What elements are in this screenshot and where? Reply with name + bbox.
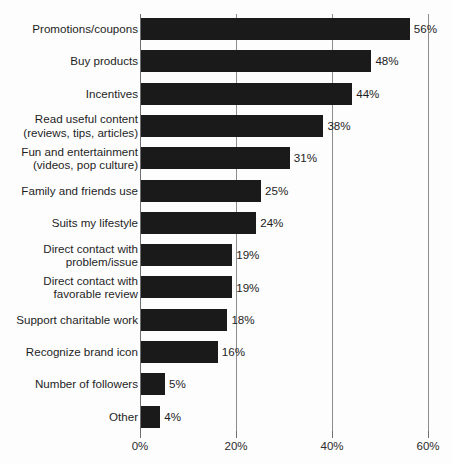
bar-value-label: 56% bbox=[414, 22, 437, 35]
category-label: Fun and entertainment (videos, pop cultu… bbox=[0, 145, 138, 172]
bar bbox=[141, 406, 160, 428]
category-label: Buy products bbox=[0, 54, 138, 68]
bar-value-label: 24% bbox=[260, 216, 283, 229]
x-tick-mark bbox=[140, 431, 141, 438]
bar bbox=[141, 147, 290, 169]
bar-value-label: 38% bbox=[327, 119, 350, 132]
x-axis-tick-label: 40% bbox=[320, 440, 343, 452]
bar-value-label: 25% bbox=[265, 184, 288, 197]
x-tick-mark bbox=[332, 431, 333, 438]
bar-row: Support charitable work18% bbox=[0, 309, 452, 331]
bar-row: Read useful content (reviews, tips, arti… bbox=[0, 115, 452, 137]
bar-row: Suits my lifestyle24% bbox=[0, 212, 452, 234]
bar bbox=[141, 341, 218, 363]
category-label: Suits my lifestyle bbox=[0, 216, 138, 230]
x-axis-tick-label: 0% bbox=[132, 440, 149, 452]
category-label: Read useful content (reviews, tips, arti… bbox=[0, 112, 138, 139]
category-label: Number of followers bbox=[0, 377, 138, 391]
bar bbox=[141, 373, 165, 395]
bar-row: Number of followers5% bbox=[0, 373, 452, 395]
bar-value-label: 4% bbox=[164, 410, 181, 423]
bar bbox=[141, 115, 323, 137]
bar-chart: 0%20%40%60% Promotions/coupons56%Buy pro… bbox=[0, 0, 452, 464]
bar-value-label: 18% bbox=[231, 313, 254, 326]
bar-row: Incentives44% bbox=[0, 83, 452, 105]
bar bbox=[141, 212, 256, 234]
bar-value-label: 5% bbox=[169, 377, 186, 390]
bar bbox=[141, 309, 227, 331]
bar-value-label: 31% bbox=[294, 151, 317, 164]
bar bbox=[141, 50, 371, 72]
category-label: Promotions/coupons bbox=[0, 22, 138, 36]
bar-row: Family and friends use25% bbox=[0, 180, 452, 202]
bar bbox=[141, 180, 261, 202]
category-label: Direct contact with problem/issue bbox=[0, 242, 138, 269]
bar bbox=[141, 244, 232, 266]
category-label: Other bbox=[0, 410, 138, 424]
bar-value-label: 16% bbox=[222, 345, 245, 358]
bar-value-label: 19% bbox=[236, 281, 259, 294]
bar-value-label: 19% bbox=[236, 248, 259, 261]
category-label: Support charitable work bbox=[0, 313, 138, 327]
bar bbox=[141, 18, 410, 40]
category-label: Direct contact with favorable review bbox=[0, 274, 138, 301]
category-label: Incentives bbox=[0, 87, 138, 101]
x-tick-mark bbox=[428, 431, 429, 438]
bar-row: Buy products48% bbox=[0, 50, 452, 72]
x-tick-mark bbox=[236, 431, 237, 438]
bar-row: Fun and entertainment (videos, pop cultu… bbox=[0, 147, 452, 169]
bar-row: Direct contact with problem/issue19% bbox=[0, 244, 452, 266]
bar-value-label: 48% bbox=[375, 54, 398, 67]
category-label: Recognize brand icon bbox=[0, 345, 138, 359]
bar-row: Other4% bbox=[0, 406, 452, 428]
bar bbox=[141, 83, 352, 105]
category-label: Family and friends use bbox=[0, 184, 138, 198]
x-axis-tick-label: 20% bbox=[224, 440, 247, 452]
bar bbox=[141, 276, 232, 298]
bar-value-label: 44% bbox=[356, 87, 379, 100]
bar-row: Recognize brand icon16% bbox=[0, 341, 452, 363]
bar-row: Promotions/coupons56% bbox=[0, 18, 452, 40]
x-axis-tick-label: 60% bbox=[416, 440, 439, 452]
bar-row: Direct contact with favorable review19% bbox=[0, 276, 452, 298]
